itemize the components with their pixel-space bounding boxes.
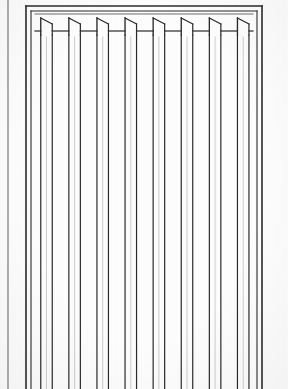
figure-canvas: Cross-sectional line drawing Technical p…: [0, 0, 288, 389]
technical-drawing-svg: [0, 0, 288, 389]
drawing-background: [0, 0, 288, 389]
